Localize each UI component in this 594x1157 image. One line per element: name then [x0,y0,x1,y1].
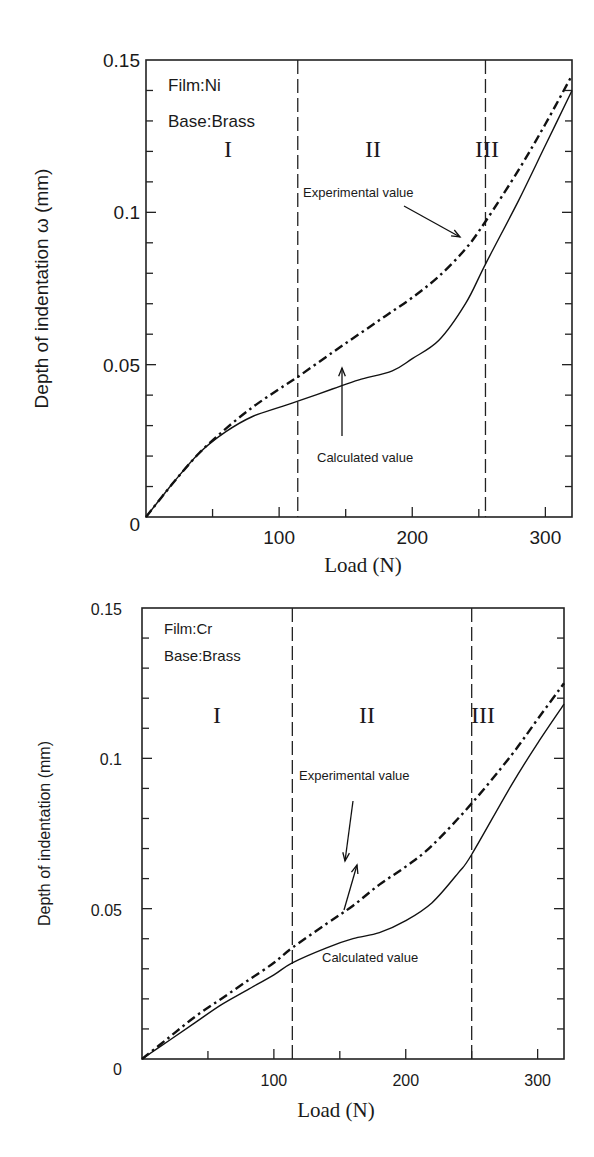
region-label-1: I [213,702,221,728]
y-tick-label: 0.1 [114,202,140,223]
x-axis-title: Load (N) [324,553,402,577]
base-label: Base:Brass [164,647,241,664]
region-label-1: I [224,136,232,162]
region-label-2: II [359,702,375,728]
experimental-value-label: Experimental value [299,768,410,783]
plot-frame [142,608,564,1059]
experimental-value-arrow [404,206,460,237]
chart-cr-brass-plot: 00.050.10.15100200300Load (N)Depth of in… [0,590,594,1157]
y-tick-label: 0.1 [100,751,122,768]
calculated-value-arrow [344,865,357,910]
film-label: Film:Cr [164,620,212,637]
x-tick-label: 200 [396,527,428,548]
calculated-value-label: Calculated value [322,950,418,965]
x-tick-label: 300 [530,527,562,548]
y-tick-label: 0.15 [103,50,140,71]
experimental-value-arrow [345,801,353,861]
x-tick-label: 200 [392,1072,419,1089]
y-tick-label: 0.15 [91,601,122,618]
x-axis-title: Load (N) [297,1098,375,1122]
film-label: Film:Ni [168,76,221,95]
y-tick-label: 0.05 [103,355,140,376]
experimental-value-label: Experimental value [303,185,414,200]
base-label: Base:Brass [168,112,255,131]
calculated-value-label: Calculated value [317,450,413,465]
chart-ni-brass-plot: 00.050.10.15100200300Load (N)Depth of in… [0,0,594,590]
chart-ni-brass: 00.050.10.15100200300Load (N)Depth of in… [0,0,594,590]
y-tick-label: 0.05 [91,902,122,919]
y-axis-title: Depth of indentation (mm) [36,741,53,926]
y-tick-label: 0 [129,514,140,535]
x-tick-label: 300 [524,1072,551,1089]
region-label-2: II [365,136,381,162]
region-label-3: III [475,136,499,162]
y-tick-label: 0 [113,1061,122,1078]
x-tick-label: 100 [261,1072,288,1089]
y-axis-title: Depth of indentation ω (mm) [31,169,52,409]
chart-cr-brass: 00.050.10.15100200300Load (N)Depth of in… [0,590,594,1157]
region-label-3: III [471,702,495,728]
x-tick-label: 100 [263,527,295,548]
calculated-value-line [142,704,564,1059]
